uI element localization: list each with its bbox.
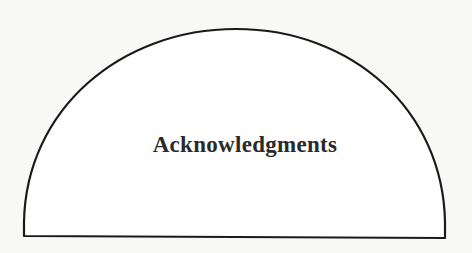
page-title: Acknowledgments [9, 132, 472, 158]
dome-frame [0, 0, 472, 253]
